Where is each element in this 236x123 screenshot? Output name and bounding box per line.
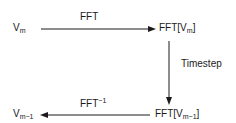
edge-fft-arrow: [41, 26, 156, 32]
node-fft-v-m-base: V: [180, 22, 187, 33]
edge-label-fft: FFT: [80, 11, 98, 23]
edge-label-inverse-fft: FFT−1: [80, 98, 106, 110]
node-fft-v-m: FFT[Vm]: [159, 22, 195, 34]
edge-label-timestep: Timestep: [181, 58, 222, 70]
node-v-m-base: V: [13, 22, 20, 33]
node-fft-v-m-minus-1-base: V: [176, 108, 183, 119]
node-v-m-minus-1: Vm−1: [13, 108, 33, 120]
edge-inverse-fft-arrow: [40, 112, 150, 118]
node-fft-v-m-suffix: ]: [193, 22, 196, 33]
edge-label-inverse-fft-base: FFT: [80, 98, 98, 109]
node-v-m-sub: m: [20, 27, 26, 34]
edge-label-inverse-fft-sup: −1: [98, 97, 106, 104]
node-v-m: Vm: [13, 22, 26, 34]
node-fft-v-m-minus-1-prefix: FFT[: [155, 108, 176, 119]
edge-timestep-arrow: [166, 41, 172, 105]
node-fft-v-m-minus-1: FFT[Vm−1]: [155, 108, 199, 120]
node-fft-v-m-prefix: FFT[: [159, 22, 180, 33]
node-fft-v-m-minus-1-sub: m−1: [183, 113, 197, 120]
node-fft-v-m-minus-1-suffix: ]: [197, 108, 200, 119]
node-v-m-minus-1-sub: m−1: [20, 113, 34, 120]
node-v-m-minus-1-base: V: [13, 108, 20, 119]
